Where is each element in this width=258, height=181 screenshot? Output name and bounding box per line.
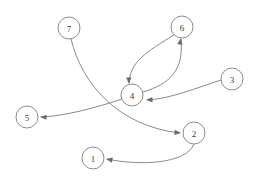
node-label-1: 1 bbox=[91, 154, 96, 164]
node-6[interactable]: 6 bbox=[171, 16, 193, 38]
node-4[interactable]: 4 bbox=[121, 84, 143, 106]
arrowhead-e-2-1 bbox=[106, 156, 113, 162]
node-label-7: 7 bbox=[67, 24, 72, 34]
node-7[interactable]: 7 bbox=[58, 17, 80, 39]
node-1[interactable]: 1 bbox=[82, 147, 104, 169]
edge-2-to-1 bbox=[107, 144, 194, 163]
edge-3-to-4 bbox=[147, 80, 221, 100]
arrow-heads-layer bbox=[40, 38, 184, 163]
node-label-4: 4 bbox=[130, 91, 135, 101]
node-label-5: 5 bbox=[25, 113, 30, 123]
node-label-3: 3 bbox=[230, 75, 235, 85]
edge-4-to-6 bbox=[143, 39, 181, 92]
node-3[interactable]: 3 bbox=[221, 68, 243, 90]
node-2[interactable]: 2 bbox=[183, 122, 205, 144]
graph-diagram: 1234567 bbox=[0, 0, 258, 181]
arrowhead-e-4-5 bbox=[40, 114, 47, 119]
edge-4-to-5 bbox=[41, 99, 122, 117]
arrowhead-e-3-4 bbox=[146, 97, 153, 103]
node-label-2: 2 bbox=[192, 129, 197, 139]
arrowhead-e-7-2 bbox=[174, 130, 181, 136]
arrowhead-e-4-6 bbox=[177, 38, 183, 45]
edge-6-to-4 bbox=[129, 35, 174, 83]
node-5[interactable]: 5 bbox=[16, 106, 38, 128]
nodes-layer: 1234567 bbox=[16, 16, 243, 169]
arrowhead-e-6-4 bbox=[126, 77, 131, 84]
node-label-6: 6 bbox=[180, 23, 185, 33]
